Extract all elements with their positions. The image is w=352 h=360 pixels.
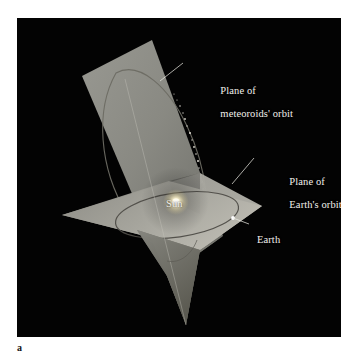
label-sun: Sun bbox=[166, 198, 183, 210]
label-earth: Earth bbox=[257, 234, 280, 246]
panel-caption-letter: a bbox=[17, 342, 22, 354]
label-plane-of-earths-orbit: Plane of Earth's orbit bbox=[273, 164, 341, 222]
figure-root: Plane of meteoroids' orbit Plane of Eart… bbox=[0, 0, 352, 360]
label-earth-plane-line2: Earth's orbit bbox=[289, 199, 341, 210]
leader-earth-plane bbox=[232, 158, 254, 184]
label-meteoroid-plane-line2: meteoroids' orbit bbox=[220, 108, 293, 119]
label-earth-plane-line1: Plane of bbox=[289, 176, 325, 187]
label-meteoroid-plane-line1: Plane of bbox=[220, 85, 256, 96]
illustration-panel: Plane of meteoroids' orbit Plane of Eart… bbox=[17, 18, 341, 337]
label-plane-of-meteoroids-orbit: Plane of meteoroids' orbit bbox=[204, 73, 293, 131]
plane-of-meteoroids-orbit-lower bbox=[137, 230, 223, 325]
